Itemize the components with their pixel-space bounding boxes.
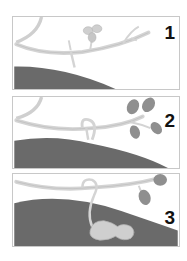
panel-2: 2	[12, 96, 180, 169]
step-number: 1	[164, 23, 175, 42]
panel-1: 1	[12, 16, 180, 90]
step-number: 3	[164, 208, 175, 227]
leaf	[137, 188, 153, 207]
step-number: 2	[164, 111, 175, 130]
leaf	[139, 97, 157, 115]
peanut-pod-illustration	[13, 174, 179, 246]
panel-3: 3	[12, 173, 180, 247]
leaf	[124, 97, 141, 116]
leaf	[128, 124, 142, 140]
leaf	[148, 120, 164, 137]
leaf	[153, 174, 167, 186]
soil	[14, 67, 115, 89]
soil	[14, 138, 168, 168]
peg-forming-illustration	[13, 97, 179, 168]
flower-stem-illustration	[13, 17, 179, 89]
